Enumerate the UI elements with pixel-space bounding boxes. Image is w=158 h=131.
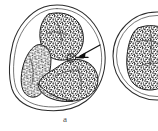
panel-label: a: [0, 114, 130, 124]
cytology-drawing: [0, 0, 158, 131]
nucleus-right: [127, 26, 158, 90]
cell-right: [113, 12, 158, 100]
cell-left: [9, 5, 105, 111]
figure-panel-a: a: [0, 0, 158, 131]
